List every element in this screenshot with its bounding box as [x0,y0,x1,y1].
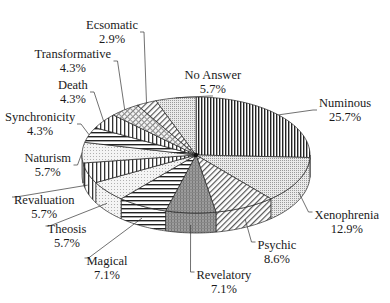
slice-label-percent: 4.3% [5,124,75,138]
slice-label-transformative: Transformative4.3% [35,47,112,75]
slice-label-death: Death4.3% [58,78,88,106]
slice-label-percent: 7.1% [197,282,252,296]
leader-line [85,218,143,258]
pie-top-face [82,97,310,213]
leader-line [90,92,104,121]
slice-label-revelatory: Revelatory7.1% [197,268,252,296]
pie-slice-numinous [196,97,310,158]
slice-label-percent: 4.3% [35,61,112,75]
slice-label-psychic: Psychic8.6% [258,238,297,266]
slice-label-name: Naturism [25,151,72,165]
slice-label-name: Ecsomatic [86,18,138,32]
slice-label-percent: 5.7% [14,207,74,221]
slice-label-name: Revelatory [197,268,252,282]
slice-label-theosis: Theosis5.7% [48,222,87,250]
slice-label-name: Revaluation [14,193,74,207]
leader-line [74,153,83,165]
leader-line [140,32,147,103]
slice-label-name: Synchronicity [5,110,75,124]
slice-label-magical: Magical7.1% [87,254,128,282]
slice-label-percent: 2.9% [86,32,138,46]
slice-label-percent: 12.9% [315,222,380,236]
leader-line [114,61,125,110]
leader-line [77,124,89,135]
slice-label-percent: 5.7% [25,165,72,179]
slice-label-name: No Answer [185,68,242,82]
slice-label-ecsomatic: Ecsomatic2.9% [86,18,138,46]
slice-label-percent: 7.1% [87,268,128,282]
slice-label-percent: 25.7% [319,110,371,124]
leader-line [278,110,317,115]
slice-label-naturism: Naturism5.7% [25,151,72,179]
slice-label-name: Magical [87,254,128,268]
slice-label-name: Death [58,78,88,92]
slice-label-percent: 5.7% [185,82,242,96]
slice-label-synchronicity: Synchronicity4.3% [5,110,75,138]
slice-label-percent: 4.3% [58,92,88,106]
slice-label-name: Psychic [258,238,297,252]
slice-label-name: Numinous [319,96,371,110]
slice-label-name: Transformative [35,47,112,61]
slice-label-no-answer: No Answer5.7% [185,68,242,96]
slice-label-revaluation: Revaluation5.7% [14,193,74,221]
slice-label-name: Theosis [48,222,87,236]
slice-label-xenophrenia: Xenophrenia12.9% [315,208,380,236]
slice-label-name: Xenophrenia [315,208,380,222]
slice-label-percent: 5.7% [48,236,87,250]
slice-label-percent: 8.6% [258,252,297,266]
slice-label-numinous: Numinous25.7% [319,96,371,124]
